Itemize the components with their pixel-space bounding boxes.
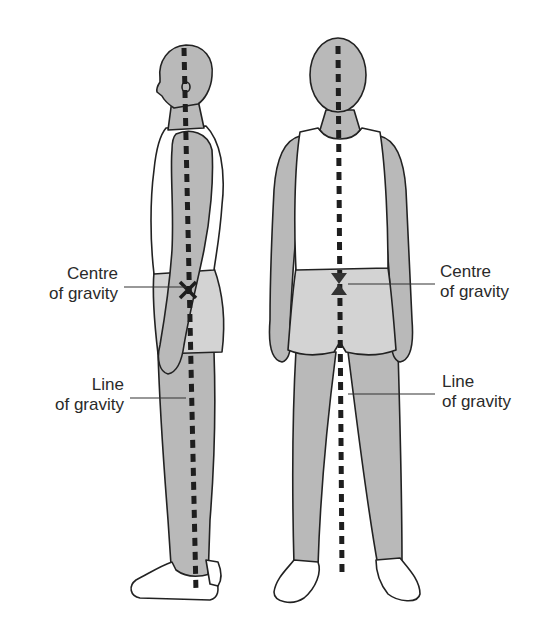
front-centre-label-line1: Centre — [440, 262, 550, 282]
front-centre-of-gravity-label: Centre of gravity — [440, 262, 550, 302]
side-line-label-line1: Line — [30, 375, 124, 395]
front-line-label-line2: of gravity — [442, 392, 551, 412]
front-line-of-gravity-label: Line of gravity — [442, 372, 551, 412]
side-view-figure — [131, 45, 224, 600]
side-line-of-gravity-label: Line of gravity — [30, 375, 124, 415]
side-centre-of-gravity-label: Centre of gravity — [30, 264, 118, 304]
posture-diagram — [0, 0, 551, 633]
front-view-figure — [270, 38, 421, 602]
side-centre-label-line1: Centre — [30, 264, 118, 284]
front-line-label-line1: Line — [442, 372, 551, 392]
front-centre-label-line2: of gravity — [440, 282, 550, 302]
side-centre-label-line2: of gravity — [30, 284, 118, 304]
side-line-label-line2: of gravity — [30, 395, 124, 415]
